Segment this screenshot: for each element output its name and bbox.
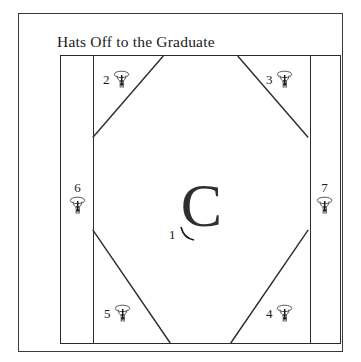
graduation-cap-icon [114,304,131,323]
patch-number: 4 [266,307,273,321]
patch-number: 2 [103,73,110,87]
patch-label-7: 7 [316,181,333,215]
graduation-cap-icon [316,196,333,215]
patch-label-1: 1 [169,226,197,243]
patch-number: 1 [169,228,176,242]
graduation-cap-icon [69,196,86,215]
patch-label-4: 4 [266,304,293,323]
patch-label-3: 3 [266,70,293,89]
patch-label-2: 2 [103,70,130,89]
patch-label-6: 6 [69,181,86,215]
patch-number: 7 [321,181,328,195]
graduation-cap-icon [276,70,293,89]
outer-border-frame: Hats Off to the Graduate C 1 [18,13,343,352]
patch-number: 6 [74,181,81,195]
quilt-block-area: C 1 2 [60,55,341,344]
quilt-block-diagram: Hats Off to the Graduate C 1 [0,0,361,362]
patch-number: 5 [104,307,111,321]
graduation-cap-icon [113,70,130,89]
page-title: Hats Off to the Graduate [57,33,215,51]
tassel-icon [179,226,197,243]
center-letter: C [61,174,342,236]
patch-number: 3 [266,73,273,87]
graduation-cap-icon [276,304,293,323]
patch-label-5: 5 [104,304,131,323]
